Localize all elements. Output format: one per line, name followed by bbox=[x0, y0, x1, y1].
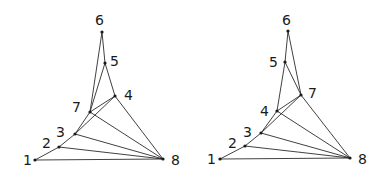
node-label-1: 1 bbox=[23, 152, 32, 168]
node-label-3: 3 bbox=[56, 124, 65, 140]
node-5 bbox=[283, 60, 286, 63]
edge-5-7 bbox=[285, 62, 301, 95]
node-7 bbox=[299, 93, 302, 96]
node-label-7: 7 bbox=[308, 85, 317, 101]
edge-4-8 bbox=[115, 96, 163, 159]
node-2 bbox=[243, 144, 246, 147]
node-7 bbox=[88, 110, 91, 113]
node-label-6: 6 bbox=[95, 12, 104, 28]
node-label-5: 5 bbox=[110, 53, 119, 69]
edge-1-8 bbox=[35, 159, 163, 160]
node-4 bbox=[113, 94, 116, 97]
node-label-8: 8 bbox=[171, 152, 180, 168]
node-label-2: 2 bbox=[42, 135, 51, 151]
edge-3-7 bbox=[75, 112, 90, 134]
node-1 bbox=[218, 157, 221, 160]
edge-7-5 bbox=[90, 63, 105, 112]
edge-6-7 bbox=[288, 31, 301, 95]
node-label-5: 5 bbox=[269, 54, 278, 70]
node-label-6: 6 bbox=[282, 12, 291, 28]
node-label-4: 4 bbox=[124, 87, 133, 103]
edge-3-8 bbox=[75, 134, 163, 159]
node-2 bbox=[57, 145, 60, 148]
node-8 bbox=[161, 157, 164, 160]
edge-4-5 bbox=[277, 62, 285, 111]
node-1 bbox=[33, 158, 36, 161]
node-3 bbox=[259, 131, 262, 134]
node-label-2: 2 bbox=[228, 135, 237, 151]
node-label-3: 3 bbox=[243, 124, 252, 140]
node-3 bbox=[73, 132, 76, 135]
edge-6-5 bbox=[102, 32, 105, 63]
left-graph: 12345678 bbox=[23, 12, 180, 168]
node-label-1: 1 bbox=[207, 151, 216, 167]
edge-4-7 bbox=[277, 95, 301, 111]
edge-7-8 bbox=[301, 95, 350, 158]
node-6 bbox=[286, 29, 289, 32]
node-label-4: 4 bbox=[260, 103, 269, 119]
node-6 bbox=[100, 30, 103, 33]
node-5 bbox=[103, 61, 106, 64]
edge-7-6 bbox=[90, 32, 102, 112]
node-8 bbox=[348, 156, 351, 159]
node-4 bbox=[275, 109, 278, 112]
node-label-7: 7 bbox=[72, 99, 81, 115]
edge-3-8 bbox=[261, 133, 350, 158]
node-label-8: 8 bbox=[358, 151, 367, 167]
edge-5-6 bbox=[285, 31, 288, 62]
graph-diagram-canvas: 12345678 12345678 bbox=[0, 0, 382, 175]
edge-1-8 bbox=[220, 158, 350, 159]
right-graph: 12345678 bbox=[207, 12, 367, 167]
